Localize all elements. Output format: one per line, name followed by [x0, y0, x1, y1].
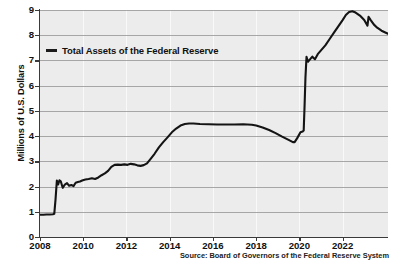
y-tick-label: 3 [0, 155, 34, 166]
y-tick-label: 8 [0, 29, 34, 40]
x-tick-label: 2020 [276, 240, 322, 251]
x-tick-mark [40, 237, 41, 241]
y-tick-label: 2 [0, 181, 34, 192]
y-tick-label: 9 [0, 4, 34, 15]
chart-figure: Millions of U.S. Dollars 0123456789 2008… [0, 0, 395, 266]
y-tick-label: 5 [0, 105, 34, 116]
y-tick-label: 4 [0, 130, 34, 141]
x-tick-label: 2014 [147, 240, 193, 251]
x-tick-mark [299, 237, 300, 241]
y-tick-label: 6 [0, 80, 34, 91]
y-tick-label: 7 [0, 54, 34, 65]
source-note: Source: Board of Governors of the Federa… [180, 251, 389, 260]
legend-line-swatch [46, 49, 57, 51]
y-tick-mark [35, 111, 39, 112]
y-tick-mark [35, 237, 39, 238]
y-tick-mark [35, 35, 39, 36]
x-tick-label: 2008 [17, 240, 63, 251]
x-tick-mark [83, 237, 84, 241]
x-tick-mark [170, 237, 171, 241]
legend-label: Total Assets of the Federal Reserve [62, 45, 218, 56]
y-tick-mark [35, 86, 39, 87]
y-tick-mark [35, 161, 39, 162]
chart-legend: Total Assets of the Federal Reserve [46, 45, 218, 56]
y-tick-label: 1 [0, 206, 34, 217]
y-tick-mark [35, 136, 39, 137]
y-tick-mark [35, 187, 39, 188]
x-tick-label: 2022 [320, 240, 366, 251]
x-tick-label: 2010 [60, 240, 106, 251]
y-tick-mark [35, 212, 39, 213]
y-tick-mark [35, 60, 39, 61]
series-path [40, 11, 388, 215]
x-tick-mark [343, 237, 344, 241]
x-tick-label: 2016 [190, 240, 236, 251]
x-tick-mark [213, 237, 214, 241]
x-tick-mark [256, 237, 257, 241]
x-tick-label: 2018 [233, 240, 279, 251]
y-tick-mark [35, 10, 39, 11]
x-tick-mark [126, 237, 127, 241]
x-tick-label: 2012 [103, 240, 149, 251]
